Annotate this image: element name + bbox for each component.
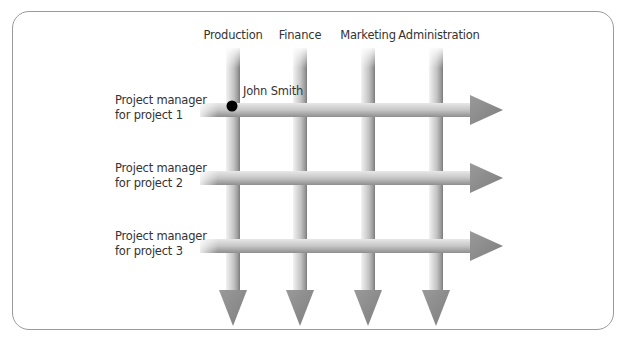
row-label-line1: Project manager [115,93,207,108]
column-label-administration: Administration [398,28,479,42]
row-label-project-1: Project manager for project 1 [115,93,207,123]
row-label-line2: for project 1 [115,108,207,123]
row-arrow-project-1 [200,95,503,125]
column-label-marketing: Marketing [340,28,396,42]
row-label-line1: Project manager [115,229,207,244]
john-smith-marker [227,101,238,112]
row-label-line1: Project manager [115,161,207,176]
column-arrow-marketing [354,48,382,326]
row-label-project-2: Project manager for project 2 [115,161,207,191]
row-label-line2: for project 3 [115,244,207,259]
row-arrow-project-3 [200,231,503,261]
john-smith-label: John Smith [243,84,303,98]
column-arrow-administration [422,48,450,326]
column-label-production: Production [203,28,262,42]
row-arrow-project-2 [200,163,503,193]
matrix-diagram [0,0,625,340]
row-label-line2: for project 2 [115,176,207,191]
row-label-project-3: Project manager for project 3 [115,229,207,259]
column-label-finance: Finance [279,28,322,42]
